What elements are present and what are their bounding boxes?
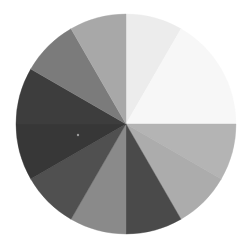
pie-slices: [16, 14, 236, 234]
pie-chart: [0, 0, 249, 247]
marker-dot: [77, 134, 79, 136]
